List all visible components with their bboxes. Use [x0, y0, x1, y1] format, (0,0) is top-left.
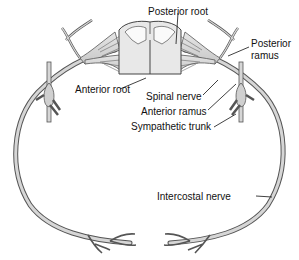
spinal-cord	[119, 21, 181, 74]
spinal-nerve-diagram: Posterior root Posterior ramus Anterior …	[0, 0, 299, 260]
label-sympathetic-trunk: Sympathetic trunk	[131, 121, 211, 132]
label-posterior-root: Posterior root	[148, 6, 208, 17]
right-intercostal-nerve	[164, 50, 283, 253]
label-posterior-ramus-line1: Posterior	[251, 38, 291, 49]
label-anterior-ramus: Anterior ramus	[141, 106, 207, 117]
left-intercostal-nerve	[16, 50, 136, 253]
label-posterior-ramus-line2: ramus	[251, 50, 279, 61]
left-posterior-ramus	[62, 20, 92, 58]
label-spinal-nerve: Spinal nerve	[146, 91, 202, 102]
right-roots	[180, 32, 220, 72]
label-intercostal-nerve: Intercostal nerve	[157, 191, 231, 202]
left-roots	[80, 32, 120, 72]
right-posterior-ramus	[208, 20, 238, 58]
label-anterior-root: Anterior root	[75, 84, 130, 95]
